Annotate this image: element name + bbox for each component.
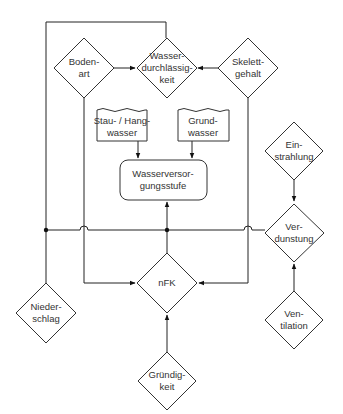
- junction-dot-center: [165, 228, 169, 232]
- node-nfk-label: nFK: [158, 277, 175, 289]
- node-grundwasser-label: Grund- wasser: [188, 115, 218, 139]
- node-wasserversorgungsstufe-label: Wasserversor- gungsstufe: [132, 168, 193, 192]
- node-einstrahlung-label: Ein- strahlung: [274, 139, 313, 163]
- node-stau-hangwasser-label: Stau- / Hang- wasser: [94, 115, 151, 139]
- node-gruendigkeit-label: Gründig- keit: [149, 369, 186, 393]
- node-verdunstung-label: Ver- dunstung: [274, 221, 313, 245]
- junction-dot-left: [44, 228, 48, 232]
- node-bodenart-label: Boden- art: [69, 56, 100, 80]
- node-skelettgehalt-label: Skelett- gehalt: [232, 56, 264, 80]
- edge-water-balance-line: [46, 226, 265, 230]
- node-niederschlag-label: Nieder- schlag: [30, 301, 61, 325]
- node-wasserdurchlaessigkeit-label: Wasser- durchlässig- keit: [141, 50, 192, 86]
- node-ventilation-label: Ven- tilation: [280, 308, 307, 332]
